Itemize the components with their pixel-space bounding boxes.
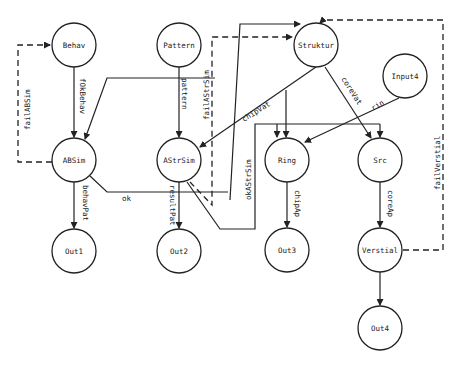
node-out4[interactable]: Out4 [358,306,402,350]
edge-ok [90,176,228,192]
node-label: Struktur [298,41,335,50]
label-failabsim: failABSim [23,89,32,130]
label-okastrsim: okAStrSim [244,159,253,200]
node-label: Out2 [170,247,188,256]
node-out2[interactable]: Out2 [157,229,201,273]
node-pattern[interactable]: Pattern [157,23,201,67]
node-label: Out4 [371,324,390,333]
node-label: Out3 [278,246,296,255]
node-ring[interactable]: Ring [265,138,309,182]
label-fokbehav: fOkBehav [78,78,87,115]
edge-loop-to-absim [85,78,215,139]
node-input4[interactable]: Input4 [383,54,427,98]
node-label: Behav [63,41,86,50]
label-resultpat: resultPat [168,185,177,226]
node-label: Input4 [391,72,419,81]
node-behav[interactable]: Behav [52,23,96,67]
node-verstial[interactable]: Verstial [358,228,402,272]
label-behavpat: behavPat [81,185,90,221]
node-out1[interactable]: Out1 [52,229,96,273]
label-failastrsim: failAStrSim [202,70,211,120]
label-chipvat: chipVat [240,99,272,123]
node-label: Verstial [362,246,398,255]
node-label: ABSim [63,156,86,165]
label-chipap: chipAp [293,190,302,218]
node-absim[interactable]: ABSim [52,138,96,182]
node-astrsim[interactable]: AStrSim [157,138,201,182]
node-label: Pattern [163,41,195,50]
node-src[interactable]: Src [358,138,402,182]
label-pattern: pattern [180,78,189,110]
node-label: Ring [278,156,296,165]
node-out3[interactable]: Out3 [265,228,309,272]
node-label: Src [373,156,387,165]
label-failverstial: failVerstial [433,136,442,190]
node-label: AStrSim [163,156,195,165]
label-corevat: coreVat [339,75,364,106]
dataflow-diagram: Behav Pattern Struktur Input4 ABSim AStr… [0,0,458,371]
label-rin: rin [370,98,386,113]
label-coreap: coreAp [386,190,395,218]
node-struktur[interactable]: Struktur [294,23,338,67]
edges-solid [74,24,399,305]
label-ok: ok [122,194,132,203]
node-label: Out1 [65,247,83,256]
edge-failverstial [320,20,443,250]
